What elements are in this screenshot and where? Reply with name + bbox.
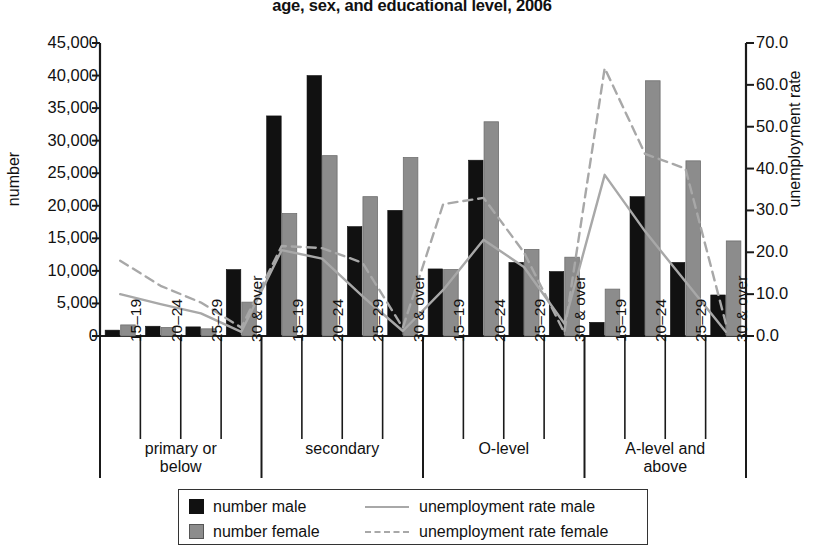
- x-tick-label: 20–24: [652, 299, 670, 342]
- bar-number-male: [105, 330, 120, 336]
- x-tick-label: 25–29: [208, 299, 226, 342]
- x-tick-label: 30 & over: [248, 276, 266, 342]
- group-label: secondary: [262, 440, 424, 458]
- group-label: O-level: [423, 440, 585, 458]
- x-tick-label: 30 & over: [410, 276, 428, 342]
- bar-number-male: [267, 116, 282, 336]
- x-tick-label: 20–24: [329, 299, 347, 342]
- legend-row-male: number male unemployment rate male: [189, 494, 647, 519]
- chart-container: age, sex, and educational level, 2006 nu…: [0, 0, 824, 553]
- x-tick-label: 15–19: [289, 299, 307, 342]
- legend-label-number-male: number male: [213, 498, 365, 516]
- x-tick-label: 15–19: [127, 299, 145, 342]
- bar-number-male: [590, 322, 605, 336]
- x-tick-label: 30 & over: [733, 276, 751, 342]
- bar-number-male: [307, 76, 322, 336]
- x-tick-label: 25–29: [369, 299, 387, 342]
- legend-row-female: number female unemployment rate female: [189, 519, 647, 544]
- x-tick-label: 20–24: [168, 299, 186, 342]
- gray-square-icon: [189, 524, 204, 539]
- legend-label-rate-male: unemployment rate male: [419, 498, 595, 516]
- x-tick-label: 25–29: [531, 299, 549, 342]
- bar-number-female: [646, 81, 661, 336]
- legend-label-number-female: number female: [213, 523, 365, 541]
- bar-number-male: [509, 262, 524, 336]
- legend-label-rate-female: unemployment rate female: [419, 523, 608, 541]
- group-label: A-level andabove: [585, 440, 747, 476]
- chart-legend: number male unemployment rate male numbe…: [178, 489, 648, 545]
- bar-number-male: [630, 197, 645, 336]
- solid-line-icon: [365, 500, 409, 514]
- black-square-icon: [189, 499, 204, 514]
- bar-number-male: [146, 326, 161, 336]
- x-tick-label: 15–19: [612, 299, 630, 342]
- x-tick-label: 15–19: [450, 299, 468, 342]
- dashed-line-icon: [365, 525, 409, 539]
- bar-number-male: [347, 227, 362, 336]
- x-tick-label: 25–29: [692, 299, 710, 342]
- x-tick-label: 20–24: [491, 299, 509, 342]
- group-label: primary orbelow: [100, 440, 262, 476]
- x-tick-label: 30 & over: [571, 276, 589, 342]
- bar-number-male: [186, 327, 201, 336]
